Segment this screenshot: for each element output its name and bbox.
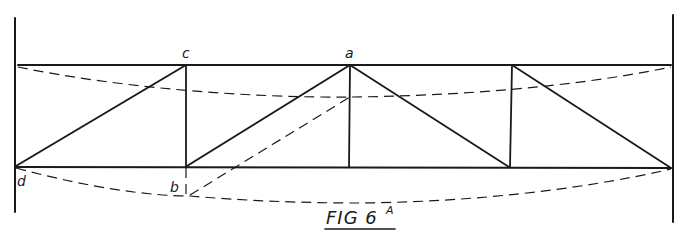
vertical-right (510, 65, 512, 167)
label-a: a (345, 45, 354, 61)
deflected-top-chord (18, 67, 671, 97)
bottom-chord (15, 167, 671, 168)
label-d: d (17, 173, 26, 189)
label-b: b (170, 179, 179, 195)
deflected-diagonal (190, 97, 350, 195)
diagonal-dc (16, 65, 186, 166)
vertical-a (349, 65, 350, 167)
figure-caption-superscript: A (385, 204, 394, 217)
deflected-bottom-chord (16, 168, 671, 203)
diagonal-to-a (187, 65, 350, 166)
figure-caption: FIG 6 (326, 207, 378, 228)
diagonal-from-a (350, 65, 509, 167)
truss-diagram: c a d b FIG 6 A (0, 0, 684, 244)
label-c: c (182, 45, 190, 61)
